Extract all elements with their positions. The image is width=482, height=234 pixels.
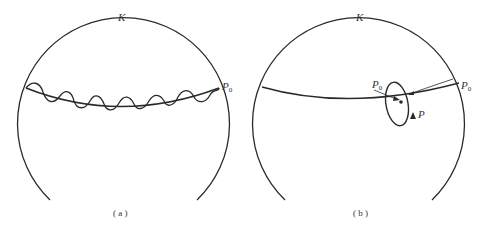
point-label-p0-edge: P0: [460, 79, 472, 93]
sphere-outline-a: [18, 18, 230, 200]
panel-a: K P0 ( a ): [18, 11, 233, 218]
point-label-p0-a: P0: [221, 80, 233, 94]
figure-canvas: K P0 ( a ) K P0 P0 P ( b ): [0, 0, 482, 234]
arrowhead-inner: [393, 96, 400, 101]
base-point-dot: [399, 100, 403, 104]
sphere-label-k-b: K: [355, 11, 364, 23]
geodesic-arc-b: [262, 83, 459, 99]
arrowhead-loop: [410, 112, 416, 119]
caption-b: ( b ): [353, 208, 368, 218]
sphere-label-k-a: K: [117, 11, 126, 23]
sphere-outline-b: [253, 18, 465, 200]
loop-ellipse: [382, 80, 411, 127]
geodesic-arc-a: [26, 88, 219, 107]
point-label-p0-inner: P0: [371, 78, 383, 92]
panel-b: K P0 P0 P ( b ): [253, 11, 472, 218]
caption-a: ( a ): [113, 208, 128, 218]
point-label-p-loop: P: [417, 108, 425, 120]
